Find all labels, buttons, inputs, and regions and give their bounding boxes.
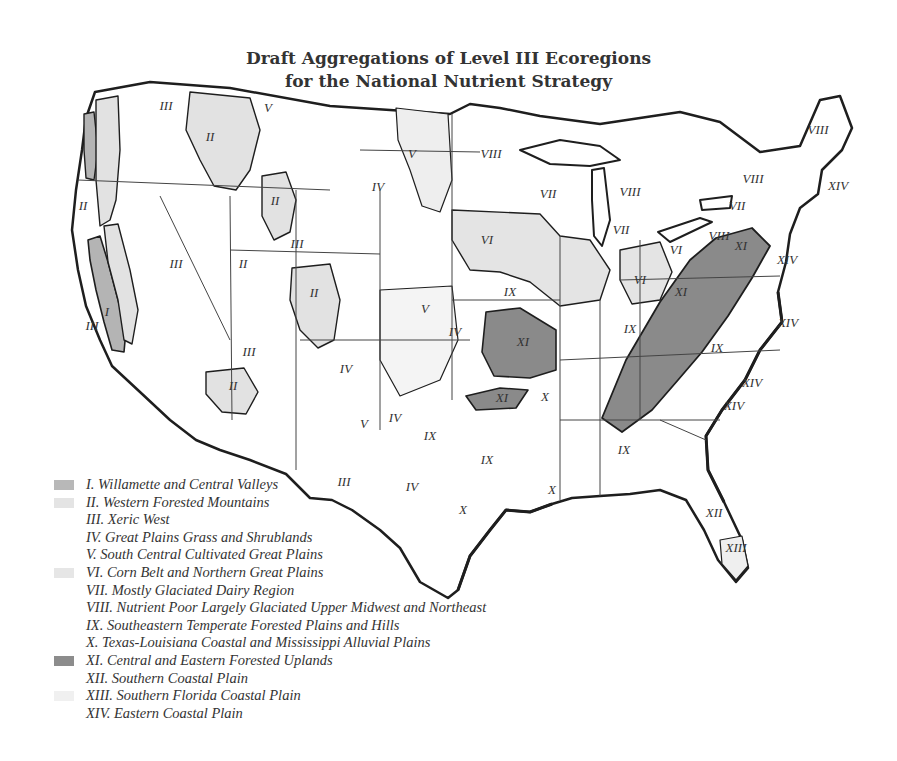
- region-label: IX: [480, 452, 494, 467]
- region-label: X: [540, 389, 550, 404]
- region-label: VII: [540, 186, 557, 201]
- region-label: VIII: [743, 171, 765, 186]
- legend-swatch: [54, 568, 74, 578]
- legend-swatch: [54, 480, 74, 490]
- legend-label: I. Willamette and Central Valleys: [86, 476, 278, 494]
- region-label: IX: [423, 428, 437, 443]
- region-label: XII: [705, 505, 723, 520]
- region-label: IX: [617, 442, 631, 457]
- region-label: VII: [729, 198, 746, 213]
- region-label: IV: [448, 324, 463, 339]
- region-label: VII: [613, 222, 630, 237]
- region-label: XI: [495, 390, 509, 405]
- legend-swatch: [54, 691, 74, 701]
- region-label: II: [270, 193, 280, 208]
- legend-label: XIII. Southern Florida Coastal Plain: [86, 687, 301, 705]
- region-label: II: [78, 198, 88, 213]
- region-label: VIII: [481, 146, 503, 161]
- legend-label: VI. Corn Belt and Northern Great Plains: [86, 564, 324, 582]
- legend-label: VII. Mostly Glaciated Dairy Region: [86, 582, 294, 600]
- region-label: III: [290, 236, 305, 251]
- region-label: VIII: [808, 122, 830, 137]
- legend-label: XI. Central and Eastern Forested Uplands: [86, 652, 333, 670]
- region-label: XIV: [777, 315, 800, 330]
- region-label: X: [547, 482, 557, 497]
- region-label: XI: [674, 284, 688, 299]
- region-label: XI: [734, 238, 748, 253]
- region-label: IX: [623, 321, 637, 336]
- region-label: IV: [371, 179, 386, 194]
- region-label: II: [309, 285, 319, 300]
- legend-label: X. Texas-Louisiana Coastal and Mississip…: [86, 634, 430, 652]
- region-label: III: [169, 256, 184, 271]
- region-label: III: [85, 318, 100, 333]
- legend-label: XII. Southern Coastal Plain: [86, 670, 248, 688]
- region-label: XIV: [723, 398, 746, 413]
- region-label: I: [104, 304, 110, 319]
- legend-label: IV. Great Plains Grass and Shrublands: [86, 529, 312, 547]
- region-label: XIII: [725, 540, 748, 555]
- region-label: VIII: [709, 228, 731, 243]
- legend-swatch: [54, 656, 74, 666]
- legend-label: VIII. Nutrient Poor Largely Glaciated Up…: [86, 599, 486, 617]
- region-label: X: [458, 502, 468, 517]
- region-label: III: [337, 474, 352, 489]
- region-label: VI: [481, 232, 494, 247]
- region-label: III: [242, 344, 257, 359]
- region-label: VIII: [620, 184, 642, 199]
- legend-label: IX. Southeastern Temperate Forested Plai…: [86, 617, 399, 635]
- region-label: IV: [405, 479, 420, 494]
- region-label: III: [159, 98, 174, 113]
- region-label: II: [228, 378, 238, 393]
- region-label: XIV: [827, 178, 850, 193]
- region-label: IX: [503, 284, 517, 299]
- region-label: II: [205, 129, 215, 144]
- region-label: XIV: [776, 252, 799, 267]
- legend-swatch: [54, 498, 74, 508]
- legend-label: V. South Central Cultivated Great Plains: [86, 546, 323, 564]
- legend-label: III. Xeric West: [86, 511, 170, 529]
- region-label: XI: [516, 334, 530, 349]
- region-label: XIV: [741, 375, 764, 390]
- region-label: IX: [710, 340, 724, 355]
- region-label: VI: [634, 272, 647, 287]
- legend-label: II. Western Forested Mountains: [86, 494, 269, 512]
- region-label: VI: [670, 242, 683, 257]
- region-label: II: [238, 256, 248, 271]
- legend-label: XIV. Eastern Coastal Plain: [86, 705, 243, 723]
- region-label: IV: [388, 410, 403, 425]
- region-label: IV: [339, 361, 354, 376]
